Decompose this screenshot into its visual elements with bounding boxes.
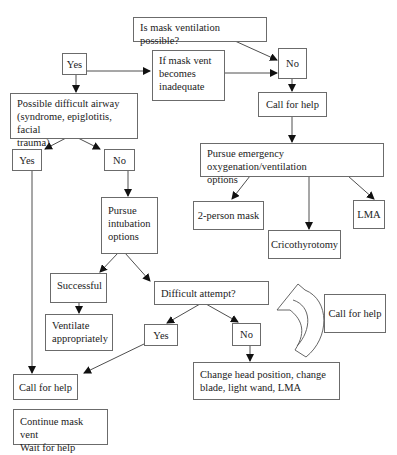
edge-intubation-to-difficult (125, 253, 150, 281)
node-pursue-emergency-options: Pursue emergency oxygenation/ventilation… (200, 143, 384, 177)
node-no-top: No (278, 48, 307, 79)
node-is-mask-ventilation-possible: Is mask ventilation possible? (133, 17, 267, 42)
node-continue-mask-vent: Continue mask vent Wait for help (13, 409, 108, 445)
edge-q-to-no (235, 41, 277, 60)
node-possible-difficult-airway: Possible difficult airway (syndrome, epi… (10, 93, 138, 139)
node-yes-mid: Yes (144, 324, 178, 346)
node-no-mid: No (232, 323, 261, 346)
edge-intubation-to-successful (100, 253, 118, 272)
edge-difficult-to-no (206, 304, 238, 322)
node-lma: LMA (353, 200, 385, 229)
node-yes-top: Yes (62, 53, 87, 75)
curved-return-arrow-icon (277, 284, 324, 357)
node-yes-left: Yes (12, 149, 42, 171)
edge-emergency-to-lma (348, 176, 374, 199)
edge-difficult-to-yes (167, 304, 200, 323)
node-2-person-mask: 2-person mask (193, 201, 264, 230)
node-pursue-intubation-options: Pursue intubation options (101, 197, 158, 254)
node-mask-vent-inadequate: If mask vent becomes inadequate (152, 50, 225, 101)
node-difficult-attempt: Difficult attempt? (154, 281, 269, 305)
node-call-for-help-bottom: Call for help (13, 374, 78, 400)
node-ventilate-appropriately: Ventilate appropriately (45, 314, 113, 351)
node-cricothyrotomy: Cricothyrotomy (268, 230, 341, 259)
node-no-left: No (104, 149, 135, 171)
node-successful: Successful (50, 273, 107, 303)
node-change-head-position: Change head position, change blade, ligh… (193, 362, 340, 400)
node-call-for-help-top: Call for help (258, 92, 327, 117)
edge-airway-to-no (78, 138, 100, 149)
node-call-for-help-side: Call for help (324, 294, 386, 333)
